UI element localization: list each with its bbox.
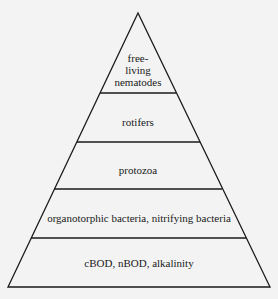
label-line: living [108,64,168,76]
pyramid-diagram: free- living nematodes rotifers protozoa… [0,0,278,299]
pyramid-outline [0,0,278,299]
label-line: nematodes [108,76,168,88]
level-label-protozoa: protozoa [88,164,188,176]
label-line: free- [108,52,168,64]
level-label-bod: cBOD, nBOD, alkalinity [40,257,238,269]
level-label-nematodes: free- living nematodes [108,52,168,88]
level-label-rotifers: rotifers [98,116,178,128]
level-label-bacteria: organotorphic bacteria, nitrifying bacte… [34,212,244,224]
